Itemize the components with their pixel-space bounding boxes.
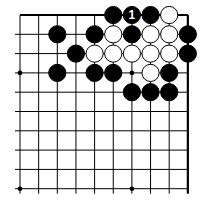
white-stone [161,6,178,23]
white-stone [161,26,178,43]
black-stone [179,45,196,62]
white-stone [105,45,122,62]
black-stone [123,84,140,101]
board-grid [15,15,188,194]
white-stone [86,45,103,62]
star-point [18,71,23,76]
black-stone: 1 [123,6,140,23]
black-stone [142,6,159,23]
black-stone [179,26,196,43]
white-stone [142,26,159,43]
black-stone [67,45,84,62]
go-board: 1 [0,0,208,214]
black-stone [161,64,178,81]
black-stone [142,84,159,101]
white-stone [142,45,159,62]
black-stone [123,26,140,43]
black-stone [105,64,122,81]
star-point [130,186,135,191]
black-stone [86,26,103,43]
black-stone [86,64,103,81]
black-stone [105,6,122,23]
star-point [130,71,135,76]
white-stone [123,45,140,62]
star-point [18,186,23,191]
black-stone [49,64,66,81]
black-stone [49,26,66,43]
black-stone [161,84,178,101]
white-stone [142,64,159,81]
white-stone [161,45,178,62]
white-stone [105,26,122,43]
move-number-label: 1 [129,8,136,22]
